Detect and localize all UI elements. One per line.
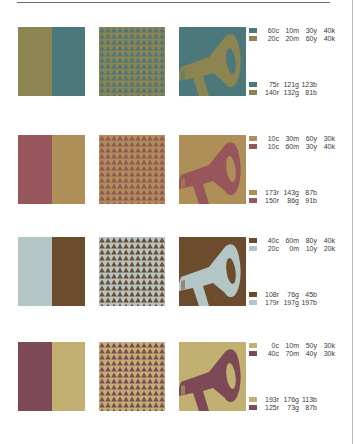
triangle-pattern-icon [99, 135, 165, 204]
swatch-right [52, 27, 86, 96]
magenta-value: 0m [279, 245, 299, 252]
green-value: 121g [279, 81, 299, 88]
rgb-line: 108r76g45b [249, 291, 349, 298]
color-combination-row: 10c30m60y30k10c60m30y40k173r143g87b150r8… [0, 135, 355, 205]
color-chip [249, 28, 257, 33]
red-value: 75r [261, 81, 279, 88]
blue-value: 45b [299, 291, 317, 298]
swatch-right [52, 342, 86, 411]
split-swatch [18, 27, 85, 96]
top-rule [17, 2, 330, 3]
split-swatch [18, 237, 85, 306]
rgb-line: 173r143g87b [249, 189, 349, 196]
red-value: 108r [261, 291, 279, 298]
green-value: 132g [279, 89, 299, 96]
megaphone-icon [179, 342, 246, 411]
yellow-value: 40y [299, 350, 317, 357]
cmyk-line: 40c60m80y40k [249, 237, 349, 244]
color-chip [249, 343, 257, 348]
cyan-value: 20c [261, 35, 279, 42]
yellow-value: 60y [299, 35, 317, 42]
cmyk-line: 60c10m30y40k [249, 27, 349, 34]
split-swatch [18, 342, 85, 411]
rgb-line: 150r86g91b [249, 197, 349, 204]
green-value: 86g [279, 197, 299, 204]
swatch-left [18, 342, 52, 411]
cyan-value: 0c [261, 342, 279, 349]
rgb-line: 125r73g87b [249, 404, 349, 411]
color-chip [249, 136, 257, 141]
black-value: 30k [317, 342, 335, 349]
cmyk-line: 40c70m40y30k [249, 350, 349, 357]
magenta-value: 10m [279, 27, 299, 34]
megaphone-icon [179, 237, 246, 306]
green-value: 76g [279, 291, 299, 298]
rgb-line: 179r197g197b [249, 299, 349, 306]
black-value: 40k [317, 27, 335, 34]
black-value: 40k [317, 143, 335, 150]
yellow-value: 50y [299, 342, 317, 349]
pattern-swatch [99, 342, 165, 411]
blue-value: 113b [299, 396, 317, 403]
magenta-value: 30m [279, 135, 299, 142]
cyan-value: 10c [261, 135, 279, 142]
green-value: 176g [279, 396, 299, 403]
red-value: 150r [261, 197, 279, 204]
color-chip [249, 397, 257, 402]
color-chip [249, 82, 257, 87]
black-value: 40k [317, 237, 335, 244]
megaphone-illustration [179, 27, 246, 96]
color-chip [249, 198, 257, 203]
swatch-left [18, 237, 52, 306]
color-combination-row: 40c60m80y40k20c0m10y20k108r76g45b179r197… [0, 237, 355, 307]
magenta-value: 60m [279, 143, 299, 150]
black-value: 20k [317, 245, 335, 252]
color-chip [249, 405, 257, 410]
triangle-pattern-icon [99, 342, 165, 411]
rgb-line: 75r121g123b [249, 81, 349, 88]
megaphone-illustration [179, 342, 246, 411]
triangle-pattern-icon [99, 27, 165, 96]
red-value: 173r [261, 189, 279, 196]
color-values: 60c10m30y40k20c20m60y40k75r121g123b140r1… [249, 27, 349, 96]
black-value: 40k [317, 35, 335, 42]
blue-value: 91b [299, 197, 317, 204]
cyan-value: 20c [261, 245, 279, 252]
cmyk-line: 20c0m10y20k [249, 245, 349, 252]
cyan-value: 60c [261, 27, 279, 34]
color-chip [249, 36, 257, 41]
magenta-value: 60m [279, 237, 299, 244]
color-chip [249, 300, 257, 305]
color-values: 0c10m50y30k40c70m40y30k193r176g113b125r7… [249, 342, 349, 411]
blue-value: 123b [299, 81, 317, 88]
pattern-swatch [99, 27, 165, 96]
swatch-left [18, 135, 52, 204]
color-chip [249, 144, 257, 149]
split-swatch [18, 135, 85, 204]
red-value: 140r [261, 89, 279, 96]
pattern-swatch [99, 135, 165, 204]
red-value: 125r [261, 404, 279, 411]
megaphone-icon [179, 135, 246, 204]
color-chip [249, 190, 257, 195]
blue-value: 197b [299, 299, 317, 306]
yellow-value: 80y [299, 237, 317, 244]
swatch-left [18, 27, 52, 96]
cyan-value: 40c [261, 237, 279, 244]
color-values: 10c30m60y30k10c60m30y40k173r143g87b150r8… [249, 135, 349, 204]
color-chip [249, 351, 257, 356]
color-chip [249, 238, 257, 243]
yellow-value: 30y [299, 143, 317, 150]
magenta-value: 10m [279, 342, 299, 349]
megaphone-illustration [179, 237, 246, 306]
red-value: 193r [261, 396, 279, 403]
green-value: 197g [279, 299, 299, 306]
blue-value: 87b [299, 404, 317, 411]
swatch-right [52, 237, 86, 306]
magenta-value: 70m [279, 350, 299, 357]
color-combination-row: 60c10m30y40k20c20m60y40k75r121g123b140r1… [0, 27, 355, 97]
cyan-value: 40c [261, 350, 279, 357]
red-value: 179r [261, 299, 279, 306]
blue-value: 81b [299, 89, 317, 96]
megaphone-illustration [179, 135, 246, 204]
